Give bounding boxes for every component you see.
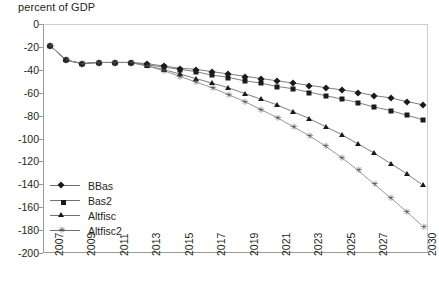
data-point-altfisc2: ✳	[144, 63, 151, 70]
legend-item-altfisc[interactable]: Altfisc	[50, 208, 145, 223]
x-tick-label: 2027	[377, 233, 389, 256]
data-point-altfisc2: ✳	[63, 57, 70, 64]
data-point-altfisc	[388, 161, 394, 166]
data-point-altfisc	[258, 96, 264, 101]
x-tick-label: 2015	[183, 233, 195, 256]
legend-marker-triangle-icon	[50, 210, 80, 221]
data-point-bas2	[323, 93, 328, 98]
data-point-altfisc2: ✳	[403, 208, 410, 215]
data-point-altfisc	[339, 132, 345, 137]
data-point-bas2	[226, 75, 231, 80]
data-point-altfisc	[323, 124, 329, 129]
x-tick-label: 2017	[215, 233, 227, 256]
data-point-bas2	[275, 84, 280, 89]
legend-label: Bas2	[88, 195, 112, 207]
legend-item-bas2[interactable]: Bas2	[50, 193, 145, 208]
y-tick-label: -20	[24, 41, 39, 53]
data-point-altfisc2: ✳	[225, 91, 232, 98]
y-tick-label: -160	[18, 201, 39, 213]
x-tick-label: 2030	[426, 233, 438, 256]
x-tick-label: 2019	[248, 233, 260, 256]
x-tick-label: 2023	[312, 233, 324, 256]
data-point-bas2	[210, 73, 215, 78]
data-point-altfisc2: ✳	[95, 59, 102, 66]
data-point-altfisc	[290, 109, 296, 114]
y-tick-label: 0	[33, 18, 39, 30]
legend-marker-diamond-icon	[50, 180, 80, 191]
data-point-bas2	[291, 87, 296, 92]
series-line-bas2	[50, 45, 421, 119]
data-point-altfisc	[274, 102, 280, 107]
data-point-altfisc2: ✳	[257, 106, 264, 113]
legend-label: Altfisc	[88, 210, 116, 222]
data-point-altfisc2: ✳	[241, 98, 248, 105]
data-point-altfisc2: ✳	[79, 60, 86, 67]
chart-title: percent of GDP	[18, 1, 95, 13]
data-point-altfisc2: ✳	[322, 143, 329, 150]
data-point-altfisc	[242, 91, 248, 96]
y-tick-label: -40	[24, 64, 39, 76]
data-point-bas2	[372, 105, 377, 110]
data-point-altfisc2: ✳	[160, 67, 167, 74]
data-point-altfisc2: ✳	[387, 194, 394, 201]
y-tick-label: -140	[18, 178, 39, 190]
y-tick-label: -100	[18, 133, 39, 145]
data-point-bas2	[193, 69, 198, 74]
data-point-altfisc2: ✳	[47, 42, 54, 49]
y-axis-labels: 0-20-40-60-80-100-120-140-160-180-200	[0, 24, 39, 253]
data-point-altfisc2: ✳	[111, 59, 118, 66]
data-point-altfisc2: ✳	[420, 223, 427, 230]
series-line-altfisc	[50, 45, 421, 183]
data-point-altfisc2: ✳	[274, 114, 281, 121]
data-point-altfisc2: ✳	[290, 123, 297, 130]
data-point-altfisc2: ✳	[371, 181, 378, 188]
data-point-altfisc	[371, 150, 377, 155]
data-point-altfisc2: ✳	[306, 133, 313, 140]
x-axis-labels: 2007200920112013201520172019202120232025…	[43, 256, 428, 302]
data-point-altfisc2: ✳	[338, 154, 345, 161]
data-point-bas2	[388, 108, 393, 113]
legend-label: Altfisc2	[88, 225, 122, 237]
y-tick	[39, 253, 43, 254]
data-point-altfisc2: ✳	[128, 59, 135, 66]
data-point-bas2	[339, 97, 344, 102]
legend-marker-star-icon: ✳	[50, 225, 80, 236]
data-point-bas2	[242, 79, 247, 84]
chart-legend: BBasBas2Altfisc✳Altfisc2	[50, 178, 145, 238]
data-point-altfisc	[420, 182, 426, 187]
x-tick-label: 2025	[345, 233, 357, 256]
series-line-bbas	[50, 45, 421, 104]
legend-item-bbas[interactable]: BBas	[50, 178, 145, 193]
legend-item-altfisc2[interactable]: ✳Altfisc2	[50, 223, 145, 238]
y-tick-label: -200	[18, 247, 39, 259]
data-point-bas2	[307, 90, 312, 95]
data-point-altfisc2: ✳	[209, 84, 216, 91]
data-point-bas2	[356, 100, 361, 105]
y-tick-label: -180	[18, 224, 39, 236]
y-tick-label: -60	[24, 87, 39, 99]
data-point-altfisc	[404, 171, 410, 176]
data-point-bas2	[258, 81, 263, 86]
data-point-bas2	[404, 113, 409, 118]
legend-marker-square-icon	[50, 195, 80, 206]
y-tick-label: -120	[18, 155, 39, 167]
x-tick-label: 2021	[280, 233, 292, 256]
legend-label: BBas	[88, 180, 113, 192]
data-point-bas2	[421, 118, 426, 123]
x-tick-label: 2013	[150, 233, 162, 256]
chart-container: percent of GDP 0-20-40-60-80-100-120-140…	[0, 0, 439, 304]
data-point-altfisc2: ✳	[176, 73, 183, 80]
data-point-altfisc	[306, 116, 312, 121]
data-point-altfisc2: ✳	[355, 167, 362, 174]
y-tick-label: -80	[24, 110, 39, 122]
data-point-altfisc2: ✳	[192, 79, 199, 86]
data-point-altfisc	[355, 141, 361, 146]
